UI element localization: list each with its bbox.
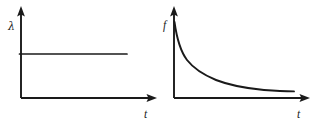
right-x-axis-label: t	[297, 108, 301, 120]
left-x-axis-label: t	[144, 108, 148, 120]
right-y-axis-label: f	[163, 19, 168, 32]
left-plot-svg: λ t	[0, 0, 160, 126]
chart-panel-right: f t	[160, 0, 321, 126]
right-plot-svg: f t	[160, 0, 321, 126]
right-exponential-decay-curve	[175, 22, 295, 91]
left-y-axis-label: λ	[7, 20, 15, 33]
chart-panel-left: λ t	[0, 0, 160, 126]
two-panel-figure: λ t f t	[0, 0, 321, 126]
